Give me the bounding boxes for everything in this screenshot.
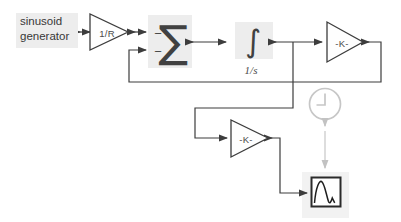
sum-input-sign-bottom: − [154,43,162,58]
clock-block[interactable] [310,89,341,120]
sinusoid-generator-block[interactable]: sinusoid generator [16,13,78,48]
sum-input-sign-top: − [154,25,162,40]
scope-block[interactable] [312,178,341,207]
source-label-line1: sinusoid [20,14,69,29]
integrator-block-symbol[interactable]: ∫ [245,26,261,57]
clock-hands-icon [317,94,326,106]
sum-sigma-symbol[interactable]: ∑ [158,20,188,64]
block-diagram-canvas: sinusoid generator 1/R -K- -K- ∑ − − ∫ 1… [0,0,401,222]
gain-1r-label: 1/R [99,27,115,38]
gain-k-top-label: -K- [335,37,349,48]
wire-gain-bottom-to-scope [268,138,307,193]
integrator-label: 1/s [245,64,258,76]
gain-k-bottom-label: -K- [239,134,253,145]
source-label-line2: generator [20,29,69,44]
